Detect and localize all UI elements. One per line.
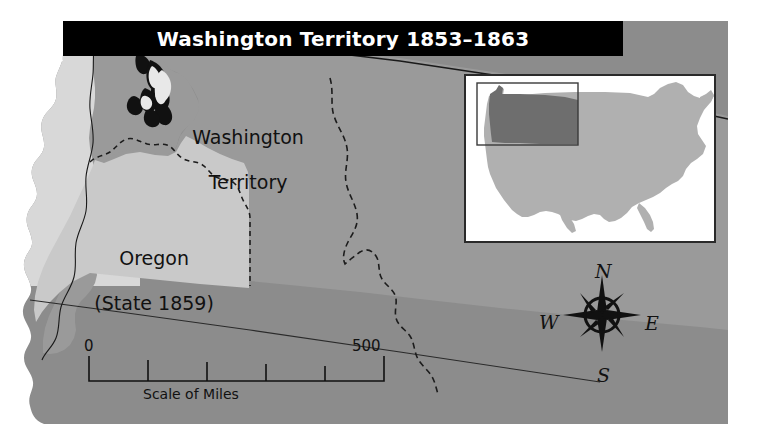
plate-corner-white	[0, 21, 63, 61]
page-title: Washington Territory 1853–1863	[157, 27, 530, 51]
washington-territory-map: Washington Territory 1853–1863 Washingto…	[0, 0, 761, 447]
map-graphic	[0, 0, 761, 447]
inset-locator-map	[464, 74, 716, 243]
map-title-banner: Washington Territory 1853–1863	[63, 21, 623, 56]
